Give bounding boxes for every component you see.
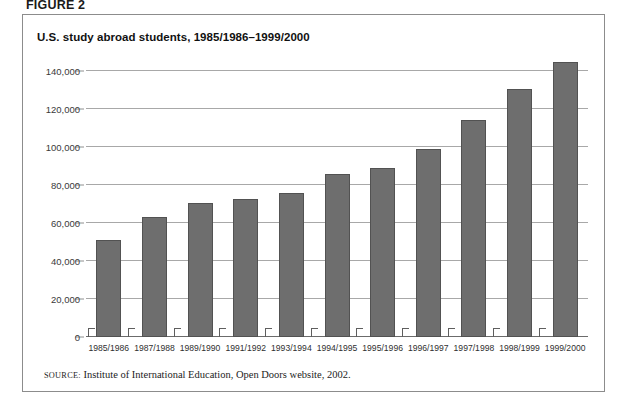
x-tick-label-1993-1994: 1993/1994 (271, 343, 312, 353)
y-tick-label-80000: 80,000 (51, 180, 80, 191)
bar-1991-1992 (233, 199, 258, 337)
axis-tick-bracket-7 (448, 328, 455, 337)
chart-bars (86, 71, 588, 337)
axis-tick-bracket-2 (219, 328, 226, 337)
y-tick-label-140000: 140,000 (46, 66, 80, 77)
x-tick-label-1999-2000: 1999/2000 (545, 343, 586, 353)
bar-1985-1986 (96, 240, 121, 337)
x-tick-label-1997-1998: 1997/1998 (454, 343, 495, 353)
x-tick-label-1989-1990: 1989/1990 (180, 343, 221, 353)
bar-1987-1988 (142, 217, 167, 337)
axis-tick-bracket-6 (402, 328, 409, 337)
y-tick-label-120000: 120,000 (46, 104, 80, 115)
axis-tick-bracket-9 (539, 328, 546, 337)
bar-1989-1990 (188, 203, 213, 337)
bar-1997-1998 (461, 120, 486, 337)
chart-title: U.S. study abroad students, 1985/1986–19… (37, 31, 310, 43)
x-tick-label-1985-1986: 1985/1986 (89, 343, 130, 353)
y-tick-label-100000: 100,000 (46, 142, 80, 153)
x-tick-label-1991-1992: 1991/1992 (225, 343, 266, 353)
bar-1998-1999 (507, 89, 532, 337)
axis-tick-bracket-4 (311, 328, 318, 337)
axis-tick-bracket-start (88, 328, 95, 337)
source-text: Institute of International Education, Op… (81, 369, 351, 380)
bar-1999-2000 (553, 62, 578, 337)
x-tick-label-1996-1997: 1996/1997 (408, 343, 449, 353)
bar-1993-1994 (279, 193, 304, 337)
x-tick-label-1998-1999: 1998/1999 (499, 343, 540, 353)
x-axis-labels: 1985/19861987/19881989/19901991/19921993… (86, 343, 588, 359)
bar-1995-1996 (370, 168, 395, 337)
y-tick-label-0: 0 (75, 332, 80, 343)
axis-tick-bracket-0 (128, 328, 135, 337)
axis-tick-bracket-8 (493, 328, 500, 337)
y-axis-labels: 020,00040,00060,00080,000100,000120,0001… (30, 71, 80, 337)
bar-1994-1995 (325, 174, 350, 337)
x-tick-label-1994-1995: 1994/1995 (317, 343, 358, 353)
y-tick-label-40000: 40,000 (51, 256, 80, 267)
y-tick-label-60000: 60,000 (51, 218, 80, 229)
x-tick-label-1987-1988: 1987/1988 (134, 343, 175, 353)
figure-label: FIGURE 2 (26, 0, 85, 12)
source-note: SOURCE: Institute of International Educa… (44, 369, 351, 380)
source-prefix: SOURCE: (44, 371, 81, 380)
y-tick-label-20000: 20,000 (51, 294, 80, 305)
figure-container: FIGURE 2 U.S. study abroad students, 198… (0, 0, 627, 407)
axis-tick-bracket-3 (265, 328, 272, 337)
bar-1996-1997 (416, 149, 441, 337)
axis-tick-bracket-1 (174, 328, 181, 337)
axis-tick-bracket-5 (356, 328, 363, 337)
x-tick-label-1995-1996: 1995/1996 (362, 343, 403, 353)
